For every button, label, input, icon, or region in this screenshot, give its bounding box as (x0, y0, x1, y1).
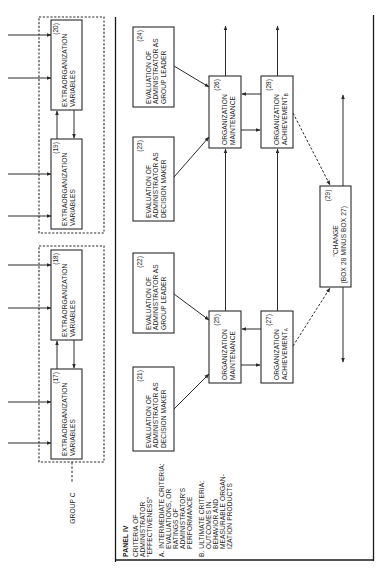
box-number: (18) (52, 253, 60, 265)
box-label-line: MAINTENANCE (229, 95, 236, 145)
panel-subtitle-line: "EFFECTIVENESS" (146, 496, 153, 557)
box-19-extraorganization-variables: (19) EXTRAORGANIZATION VARIABLES (51, 139, 82, 229)
box-label-line: EXTRAORGANIZATION (61, 382, 68, 456)
box-number: (26) (213, 79, 221, 91)
box-20-extraorganization-variables: (20) EXTRAORGANIZATION VARIABLES (51, 20, 82, 110)
box-label-line: MAINTENANCE (229, 330, 236, 380)
box-number: (17) (52, 372, 60, 384)
box-label-line: ACHIEVEMENT (281, 331, 288, 380)
box-number: (21) (136, 370, 144, 382)
box-label-line: DECISION MAKER (160, 159, 167, 218)
box-label-line: ORGANIZATION (221, 94, 228, 145)
box-29-change: (29) "CHANGE (BOX 28 MINUS BOX 27) (320, 186, 351, 287)
box-label-line: EXTRAORGANIZATION (61, 33, 68, 107)
criteria-a-line: ADMINISTRATOR'S (179, 487, 186, 549)
box-label-line: EXTRAORGANIZATION (61, 263, 68, 337)
box-label-line: ORGANIZATION (273, 329, 280, 380)
criteria-a-line: A. INTERMEDIATE CRITERIA: (158, 463, 165, 557)
box-label-line: "CHANGE (332, 225, 339, 257)
arrow-24-to-26 (174, 66, 209, 87)
arrow-23-to-26 (174, 137, 209, 177)
diagram-canvas: (20) EXTRAORGANIZATION VARIABLES (19) EX… (0, 0, 385, 574)
box-label-line: GROUP LEADER (160, 276, 167, 330)
panel-iv-legend: PANEL IV CRITERIA OF ADMINISTRATOR "EFFE… (122, 463, 233, 557)
box-label-line: EVALUATION OF (145, 395, 152, 448)
box-label-line: ADMINISTRATOR AS (152, 152, 159, 218)
box-number: (20) (52, 23, 60, 35)
box-label-line: ORGANIZATION (273, 94, 280, 145)
group-c-label: GROUP C (69, 492, 76, 523)
box-18-extraorganization-variables: (18) EXTRAORGANIZATION VARIABLES (51, 250, 82, 340)
arrow-22-to-25 (174, 294, 209, 320)
box-label-subscript: B (284, 93, 289, 96)
dashed-arrow-28-to-29 (293, 113, 330, 185)
box-label-subscript: A (284, 328, 289, 331)
box-24-evaluation-group-leader: (24) EVALUATION OF ADMINISTRATOR AS GROU… (133, 27, 174, 107)
criteria-b-line: OUTCOMES IN (205, 501, 212, 549)
box-number: (19) (52, 142, 60, 154)
criteria-b-line: B. ULTIMATE CRITERIA: (198, 481, 205, 557)
box-label-line: VARIABLES (69, 69, 76, 107)
criteria-a-line: RATINGS OF (172, 508, 179, 549)
panel-subtitle-line: CRITERIA OF (132, 515, 139, 558)
dashed-arrow-27-to-29 (293, 288, 330, 346)
box-27-organization-achievement-a: (27) ORGANIZATION ACHIEVEMENTA (261, 311, 293, 383)
criteria-a-line: EVALUATIONS, OR (165, 489, 172, 549)
criteria-b-line: MEASURABLE ORGAN- (219, 474, 226, 549)
box-label-line: GROUP LEADER (160, 50, 167, 104)
box-28-organization-achievement-b: (28) ORGANIZATION ACHIEVEMENTB (261, 76, 293, 148)
box-label-line: VARIABLES (69, 299, 76, 337)
box-label-line: ADMINISTRATOR AS (152, 264, 159, 330)
box-number: (24) (136, 30, 144, 42)
box-22-evaluation-group-leader: (22) EVALUATION OF ADMINISTRATOR AS GROU… (133, 253, 174, 333)
box-17-extraorganization-variables: (17) EXTRAORGANIZATION VARIABLES (51, 369, 82, 459)
box-label-line: ADMINISTRATOR AS (152, 38, 159, 104)
arrow-21-to-25 (174, 374, 209, 409)
criteria-b-line: BEHAVIOR AND (212, 499, 219, 549)
box-number: (28) (265, 79, 273, 91)
criteria-a-line: PERFORMANCE (186, 496, 193, 549)
panel-title: PANEL IV (122, 525, 129, 557)
box-label-line: DECISION MAKER (160, 389, 167, 448)
box-label-line: VARIABLES (69, 188, 76, 226)
box-number: (25) (213, 314, 221, 326)
box-number: (27) (265, 314, 273, 326)
box-label-line: EVALUATION OF (145, 277, 152, 330)
box-25-organization-maintenance: (25) ORGANIZATION MAINTENANCE (209, 311, 241, 383)
box-label-line: ADMINISTRATOR AS (152, 382, 159, 448)
box-label-line: EVALUATION OF (145, 165, 152, 218)
box-label-line: EXTRAORGANIZATION (61, 152, 68, 226)
box-label-line: ACHIEVEMENT (281, 96, 288, 145)
box-21-evaluation-decision-maker: (21) EVALUATION OF ADMINISTRATOR AS DECI… (133, 367, 174, 451)
box-number: (23) (136, 140, 144, 152)
box-26-organization-maintenance: (26) ORGANIZATION MAINTENANCE (209, 76, 241, 148)
box-number: (29) (324, 190, 332, 202)
box-number: (22) (136, 256, 144, 268)
panel-subtitle-line: ADMINISTRATOR (139, 502, 146, 557)
box-label-line: (BOX 28 MINUS BOX 27) (340, 206, 348, 284)
box-label-line: VARIABLES (69, 418, 76, 456)
box-23-evaluation-decision-maker: (23) EVALUATION OF ADMINISTRATOR AS DECI… (133, 137, 174, 221)
criteria-b-line: IZATION PRODUCTS (226, 483, 233, 549)
box-label-line: ORGANIZATION (221, 329, 228, 380)
box-label-line: EVALUATION OF (145, 51, 152, 104)
